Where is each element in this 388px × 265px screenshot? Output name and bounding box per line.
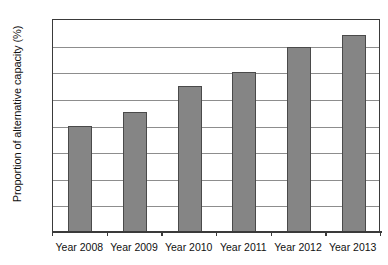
gridline (53, 100, 379, 101)
gridline (53, 206, 379, 207)
gridline (53, 180, 379, 181)
x-tick-mark (161, 231, 162, 236)
gridline (53, 73, 379, 74)
x-tick-mark (271, 231, 272, 236)
gridline (53, 127, 379, 128)
plot-area: 0246810121416 (52, 19, 380, 232)
gridline (53, 47, 379, 48)
x-tick-mark (107, 231, 108, 236)
x-tick-mark (52, 231, 53, 236)
bar (123, 112, 147, 232)
bar (287, 47, 311, 232)
x-tick-label: Year 2013 (318, 241, 388, 253)
x-tick-mark (380, 231, 381, 236)
bar (232, 72, 256, 232)
bar (342, 35, 366, 232)
bar (68, 126, 92, 233)
x-tick-mark (325, 231, 326, 236)
bar (178, 86, 202, 232)
y-axis-title: Proportion of alternative capacity (%) (11, 0, 23, 228)
x-tick-mark (216, 231, 217, 236)
bar-chart: Proportion of alternative capacity (%) 0… (0, 0, 388, 265)
gridline (53, 153, 379, 154)
